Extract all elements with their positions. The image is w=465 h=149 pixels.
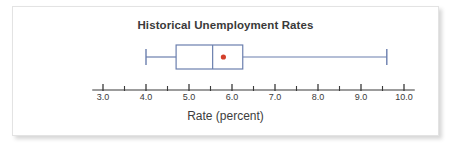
- figure-card: Historical Unemployment Rates 3.04.05.06…: [12, 6, 439, 136]
- mean-marker-dot: [221, 54, 226, 59]
- axis-tick-label: 4.0: [131, 92, 161, 102]
- axis-tick-label: 5.0: [174, 92, 204, 102]
- axis-tick-label: 3.0: [88, 92, 118, 102]
- axis-tick-label: 6.0: [217, 92, 247, 102]
- axis-tick-label: 7.0: [260, 92, 290, 102]
- box-iqr: [176, 45, 243, 69]
- boxplot-group: [146, 45, 387, 69]
- x-axis-label: Rate (percent): [13, 109, 438, 123]
- axis-group: [92, 84, 415, 91]
- axis-tick-label: 9.0: [346, 92, 376, 102]
- axis-tick-label: 10.0: [389, 92, 419, 102]
- axis-tick-label: 8.0: [303, 92, 333, 102]
